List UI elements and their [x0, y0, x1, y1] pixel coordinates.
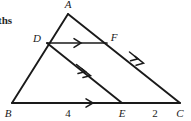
geometry-figure: ths A B C D E F — [0, 0, 191, 121]
measure-label-BE: 4 — [65, 107, 71, 119]
vertex-label-D: D — [32, 32, 41, 44]
parallel-mark-fc-double — [130, 52, 144, 65]
geometry-canvas: A B C D E F 4 2 — [0, 0, 191, 121]
vertex-label-F: F — [110, 31, 118, 43]
side-AB — [12, 14, 68, 103]
measure-label-EC: 2 — [152, 107, 158, 119]
vertex-label-E: E — [118, 107, 126, 119]
vertex-label-C: C — [176, 107, 184, 119]
segment-DE — [47, 43, 122, 103]
vertex-label-A: A — [64, 0, 72, 10]
side-AC — [68, 14, 180, 103]
parallel-mark-de-double — [77, 65, 91, 78]
vertex-label-B: B — [5, 107, 12, 119]
